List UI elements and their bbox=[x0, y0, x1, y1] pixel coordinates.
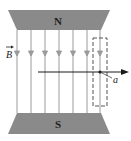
point-a-leader bbox=[100, 72, 112, 78]
north-pole-label: N bbox=[54, 15, 62, 27]
point-a-label: a bbox=[113, 74, 118, 85]
vector-arrowhead-icon bbox=[11, 46, 14, 49]
arrowhead-icon bbox=[121, 69, 129, 75]
field-b-label: B bbox=[6, 49, 12, 60]
south-pole-label: S bbox=[55, 118, 61, 130]
